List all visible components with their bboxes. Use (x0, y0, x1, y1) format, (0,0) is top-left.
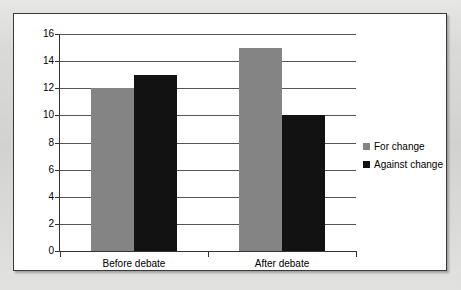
x-axis-category-label: Before debate (74, 258, 194, 269)
y-axis-tick-label: 16 (28, 29, 54, 39)
legend-item: Against change (363, 156, 447, 173)
bar-against-change-before-debate (134, 75, 177, 251)
legend-item-label: Against change (374, 160, 443, 170)
x-axis-category-label: After debate (222, 258, 342, 269)
y-axis-labels: 1614121086420 (28, 14, 54, 270)
plot-area: 1614121086420 Before debateAfter debate … (14, 14, 446, 270)
chart-frame: 1614121086420 Before debateAfter debate … (13, 13, 447, 271)
bar-for-change-before-debate (91, 88, 134, 251)
y-axis-tick-label: 2 (28, 219, 54, 229)
bar-against-change-after-debate (282, 115, 325, 251)
y-axis-tick-label: 0 (28, 246, 54, 256)
black-swatch-icon (363, 161, 370, 168)
y-axis-tick-label: 14 (28, 56, 54, 66)
legend-item-label: For change (374, 142, 425, 152)
x-axis-separator-tick (208, 251, 209, 257)
page-background: 1614121086420 Before debateAfter debate … (0, 0, 461, 290)
bars-container (60, 34, 356, 251)
x-axis-end-tick (60, 251, 61, 257)
bar-for-change-after-debate (239, 48, 282, 251)
y-axis-tick-label: 6 (28, 165, 54, 175)
gray-swatch-icon (363, 143, 370, 150)
y-axis-tick-label: 8 (28, 138, 54, 148)
y-axis-tick-label: 4 (28, 192, 54, 202)
y-axis-tick-label: 10 (28, 110, 54, 120)
x-axis-end-tick (356, 251, 357, 257)
chart-legend: For changeAgainst change (363, 138, 447, 174)
legend-item: For change (363, 138, 447, 155)
y-axis-tick-label: 12 (28, 83, 54, 93)
